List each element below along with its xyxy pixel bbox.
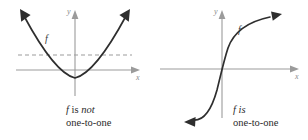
caption-one-to-one: f is one-to-one — [233, 103, 278, 129]
caption-right-line2: one-to-one — [233, 116, 278, 129]
left-y-axis — [72, 10, 79, 96]
figure-one-to-one-comparison: f y x f y x — [0, 0, 308, 140]
caption-right-line1: f is — [233, 103, 278, 116]
caption-right-is: is — [236, 104, 246, 115]
caption-left-is: is — [69, 104, 81, 115]
left-curve-label: f — [45, 33, 49, 44]
left-x-axis — [16, 67, 140, 74]
right-y-axis — [219, 10, 226, 118]
right-x-axis-label: x — [294, 72, 299, 81]
right-y-axis-label: y — [213, 7, 218, 16]
right-plot-svg: f y x — [154, 0, 308, 140]
caption-left-line2: one-to-one — [66, 116, 111, 129]
panel-one-to-one: f y x — [154, 0, 308, 140]
left-y-axis-label: y — [66, 7, 71, 16]
right-x-axis — [160, 66, 299, 73]
caption-left-not: not — [81, 104, 94, 115]
caption-left-line1: f is not — [66, 103, 111, 116]
caption-not-one-to-one: f is not one-to-one — [66, 103, 111, 129]
left-x-axis-label: x — [135, 73, 140, 82]
